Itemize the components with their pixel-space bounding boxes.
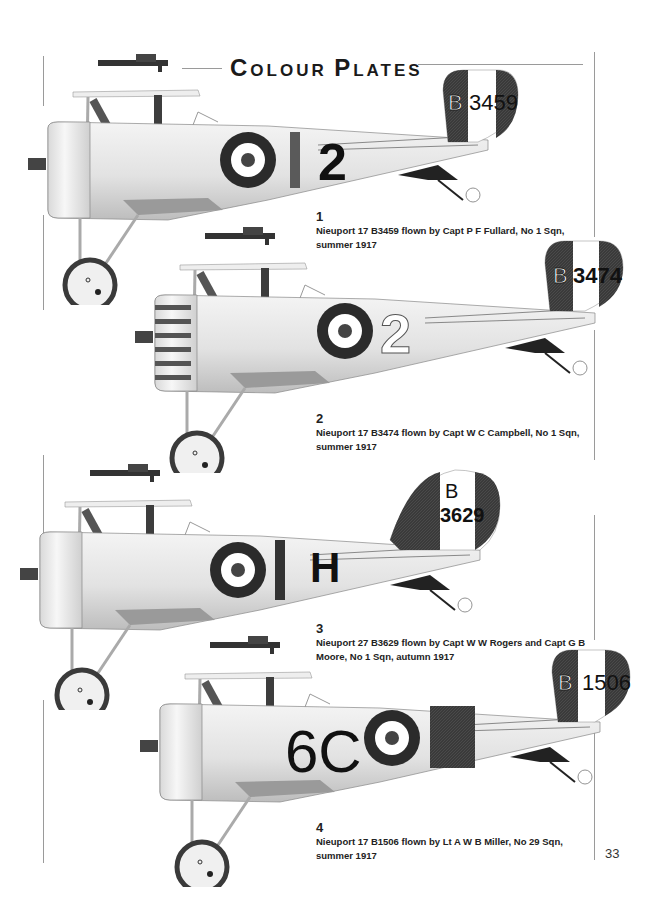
caption-text: summer 1917 <box>316 850 377 861</box>
svg-text:2: 2 <box>380 302 411 365</box>
plate-number: 2 <box>316 411 579 426</box>
plate-caption-4: 4 Nieuport 17 B1506 flown by Lt A W B Mi… <box>316 820 563 863</box>
right-frame-line <box>594 515 595 640</box>
caption-text: Nieuport 17 B3459 flown by Capt P F Full… <box>316 225 564 236</box>
svg-text:B: B <box>445 480 458 502</box>
plate-number: 4 <box>316 820 563 835</box>
svg-text:2: 2 <box>318 133 347 191</box>
svg-text:1506: 1506 <box>582 670 631 695</box>
plate-caption-2: 2 Nieuport 17 B3474 flown by Capt W C Ca… <box>316 411 579 454</box>
caption-text: Nieuport 17 B3474 flown by Capt W C Camp… <box>316 427 579 438</box>
page-number: 33 <box>605 846 619 861</box>
svg-text:3459: 3459 <box>469 90 518 115</box>
svg-text:3629: 3629 <box>440 504 485 526</box>
svg-text:B: B <box>448 90 463 115</box>
plate-number: 3 <box>316 621 585 636</box>
svg-text:B: B <box>558 670 573 695</box>
caption-text: Nieuport 17 B1506 flown by Lt A W B Mill… <box>316 836 563 847</box>
svg-text:B: B <box>553 263 568 288</box>
caption-text: Moore, No 1 Sqn, autumn 1917 <box>316 651 454 662</box>
plate-number: 1 <box>316 209 564 224</box>
caption-text: summer 1917 <box>316 239 377 250</box>
plate-caption-3: 3 Nieuport 27 B3629 flown by Capt W W Ro… <box>316 621 585 664</box>
svg-text:H: H <box>310 544 340 591</box>
plate-caption-1: 1 Nieuport 17 B3459 flown by Capt P F Fu… <box>316 209 564 252</box>
caption-text: Nieuport 27 B3629 flown by Capt W W Roge… <box>316 637 585 648</box>
svg-text:6C: 6C <box>285 718 362 785</box>
left-frame-line <box>43 700 44 863</box>
svg-text:3474: 3474 <box>573 263 623 288</box>
caption-text: summer 1917 <box>316 441 377 452</box>
right-frame-line <box>594 52 595 237</box>
